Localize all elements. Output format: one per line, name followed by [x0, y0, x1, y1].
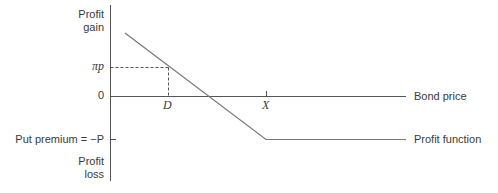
y-tick-label-put-premium: Put premium = −P: [0, 133, 104, 146]
y-tick-label-pi-p: πp: [60, 60, 104, 73]
x-axis-label-bond-price: Bond price: [414, 90, 467, 103]
profit-function-line: [125, 33, 406, 140]
y-label-profit-gain-1: Profit: [60, 8, 104, 21]
x-tick-label-d: D: [163, 99, 172, 112]
y-label-profit-loss-2: loss: [60, 168, 104, 181]
series-label-profit-function: Profit function: [414, 133, 481, 146]
y-tick-label-zero: 0: [60, 89, 104, 102]
x-tick-label-x: X: [262, 99, 269, 112]
y-label-profit-loss-1: Profit: [60, 155, 104, 168]
y-label-profit-gain-2: gain: [60, 21, 104, 34]
